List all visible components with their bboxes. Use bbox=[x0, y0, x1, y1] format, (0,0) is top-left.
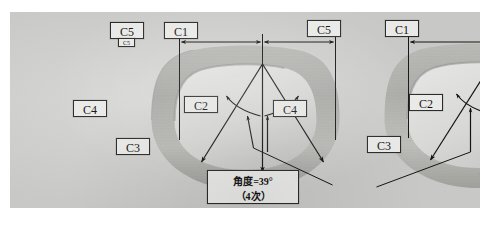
label-c1-left: C1 bbox=[164, 22, 198, 39]
label-c2-right: C2 bbox=[409, 94, 443, 111]
page-margin-bottom bbox=[0, 208, 498, 227]
figure-root: |<------ C1 ------>| --> bbox=[0, 0, 498, 227]
label-c4-left: C4 bbox=[73, 100, 107, 117]
page-margin-left bbox=[0, 0, 10, 227]
photograph-plate: |<------ C1 ------>| --> bbox=[10, 12, 480, 208]
angle-note-line1: 角度=39° bbox=[233, 176, 273, 187]
page-margin-top bbox=[0, 0, 498, 12]
angle-note-line2: （4次） bbox=[208, 190, 298, 205]
label-c3-right: C3 bbox=[367, 136, 401, 153]
label-c3-left: C3 bbox=[116, 138, 150, 155]
label-c4-right: C4 bbox=[273, 100, 307, 117]
label-c5-right: C5 bbox=[307, 20, 341, 37]
label-c2-left: C2 bbox=[184, 96, 218, 113]
label-c5-small-left: C5 bbox=[118, 38, 135, 47]
page-margin-right bbox=[480, 0, 498, 227]
label-c1-right: C1 bbox=[385, 20, 419, 37]
angle-note-box: 角度=39° （4次） bbox=[207, 170, 299, 204]
label-c5-left: C5 bbox=[110, 22, 144, 39]
